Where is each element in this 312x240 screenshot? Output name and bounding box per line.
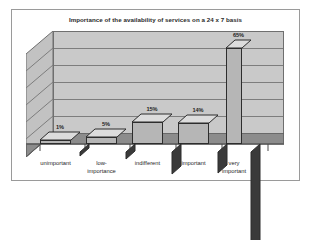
bar-front-face xyxy=(132,122,163,144)
category-label-line: unimportant xyxy=(31,160,81,168)
bar-value-label: 5% xyxy=(86,121,126,127)
bar-important[interactable] xyxy=(178,123,209,144)
gridline xyxy=(54,82,283,83)
bar-very-important[interactable] xyxy=(226,48,242,144)
category-label-low-importance: low- importance xyxy=(77,160,127,175)
bar-value-label: 14% xyxy=(178,107,218,113)
gridline xyxy=(54,99,283,100)
chart-title: Importance of the availability of servic… xyxy=(12,16,299,23)
bar-unimportant[interactable] xyxy=(40,140,71,144)
gridline xyxy=(54,65,283,66)
bar-value-label: 15% xyxy=(132,106,172,112)
bar-value-label: 1% xyxy=(40,124,80,130)
category-label-line: low- xyxy=(77,160,127,168)
bar-front-face xyxy=(40,140,71,144)
plot-area: 1% 5% 15% 14% 65% xyxy=(26,31,284,157)
bar-front-face xyxy=(86,137,117,144)
bar-indifferent[interactable] xyxy=(132,122,163,144)
category-axis: unimportant low- importance indifferent … xyxy=(26,160,284,184)
category-label-line: very xyxy=(209,160,259,168)
bar-low-importance[interactable] xyxy=(86,137,117,144)
category-label-indifferent: indifferent xyxy=(123,160,173,168)
chart-frame: Importance of the availability of servic… xyxy=(11,9,300,181)
category-label-line: importance xyxy=(77,168,127,176)
bar-value-label: 65% xyxy=(219,32,259,38)
bar-front-face xyxy=(178,123,209,144)
category-label-very-important: very important xyxy=(209,160,259,175)
category-label-unimportant: unimportant xyxy=(31,160,81,168)
category-label-line: indifferent xyxy=(123,160,173,168)
bar-front-face xyxy=(226,48,242,144)
category-label-line: important xyxy=(209,168,259,176)
